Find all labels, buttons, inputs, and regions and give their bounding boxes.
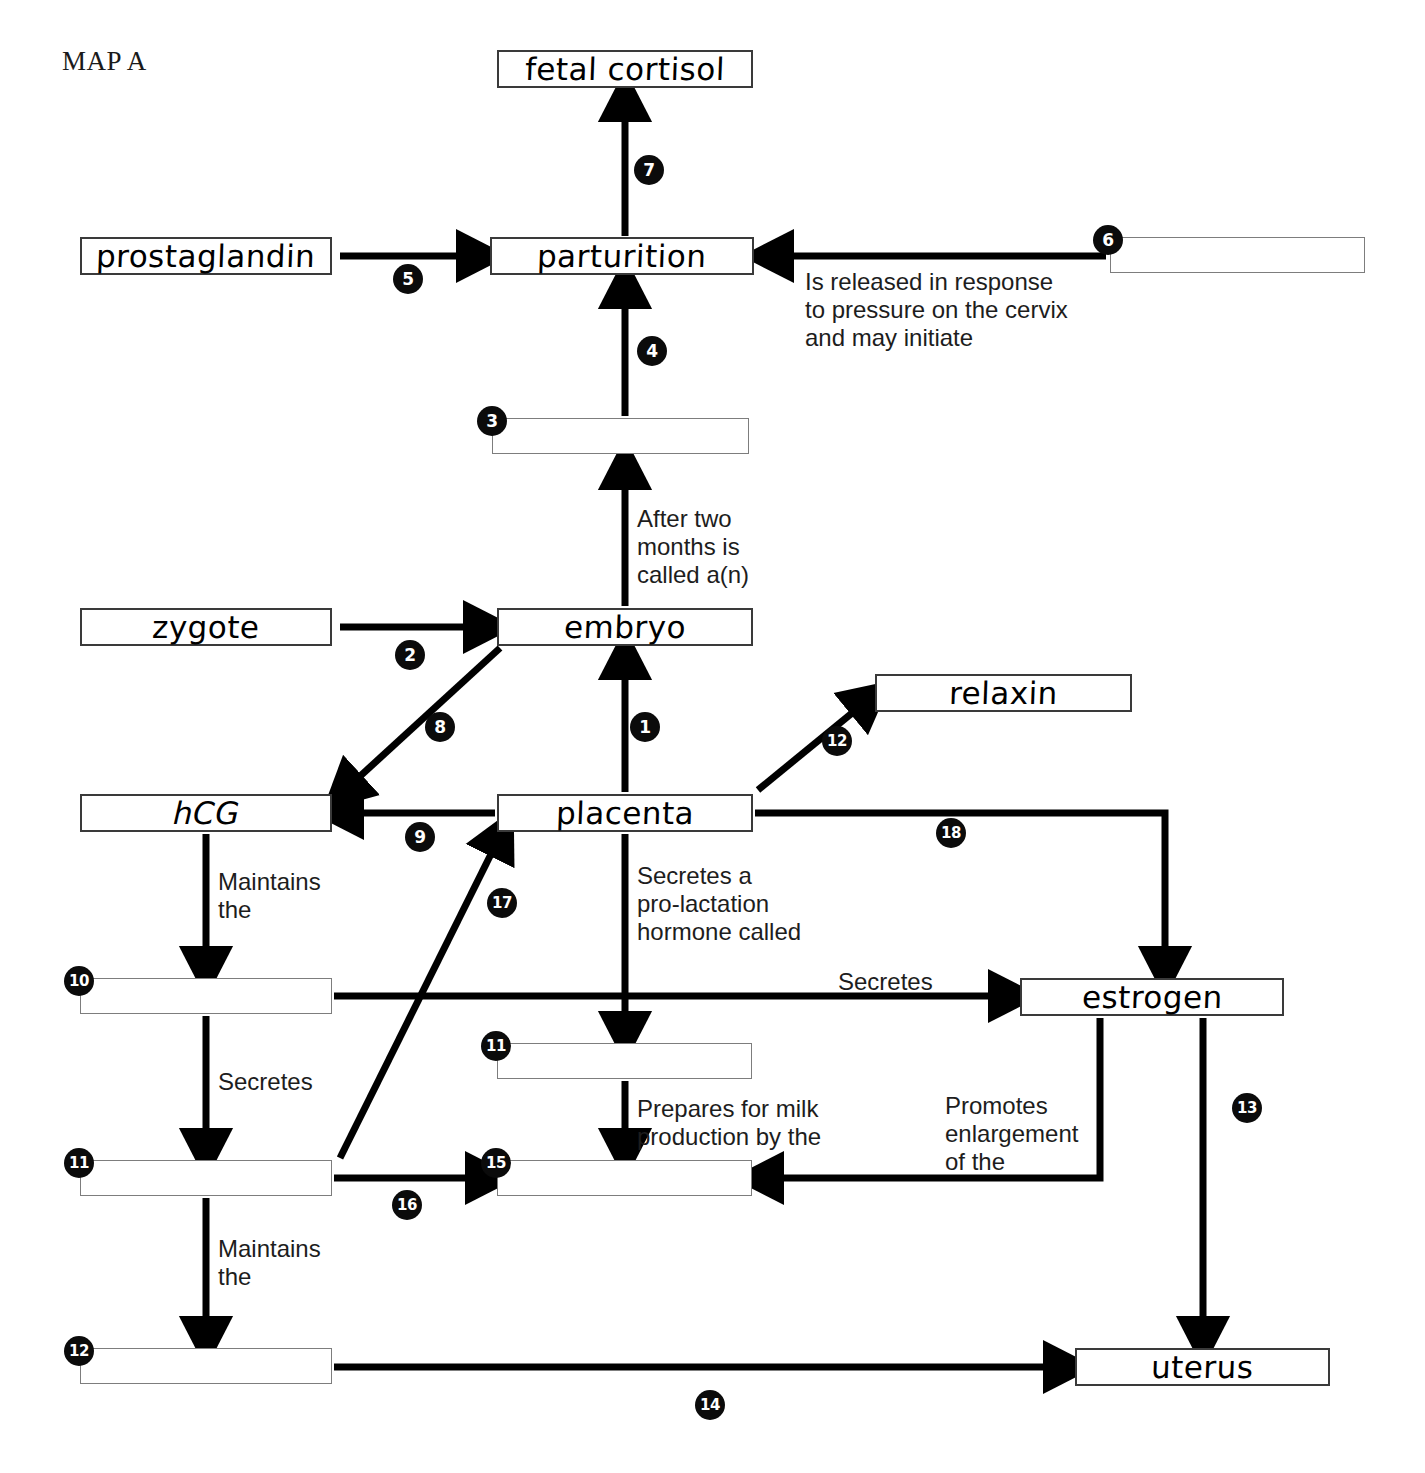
caption-prepares-for-milk: Prepares for milk production by the [637, 1095, 821, 1151]
number-marker-12-relaxin: 12 [822, 726, 852, 756]
node-label: prostaglandin [96, 241, 316, 272]
node-fetal-cortisol[interactable]: fetal cortisol [497, 50, 753, 88]
caption-after-two-months: After two months is called a(n) [637, 505, 749, 588]
number-marker-10: 10 [64, 966, 94, 996]
node-label: zygote [152, 612, 261, 643]
number-marker-1: 1 [630, 712, 660, 742]
caption-released-in-response: Is released in response to pressure on t… [805, 268, 1068, 351]
caption-secretes-prolactation-hormone: Secretes a pro-lactation hormone called [637, 862, 801, 945]
caption-secretes-estrogen: Secretes [838, 968, 933, 996]
node-parturition[interactable]: parturition [490, 237, 754, 275]
edge-12-placenta-to-relaxin [758, 700, 868, 790]
number-marker-4: 4 [637, 336, 667, 366]
number-marker-11-middle: 11 [481, 1031, 511, 1061]
answer-box-6[interactable] [1110, 237, 1365, 273]
number-marker-6: 6 [1093, 225, 1123, 255]
edge-17-blank11left-to-placenta [340, 836, 500, 1158]
node-embryo[interactable]: embryo [497, 608, 753, 646]
node-uterus[interactable]: uterus [1075, 1348, 1330, 1386]
number-marker-8: 8 [425, 712, 455, 742]
node-hcg[interactable]: hCG [80, 794, 332, 832]
number-marker-3: 3 [477, 406, 507, 436]
answer-box-3[interactable] [492, 418, 749, 454]
number-marker-2: 2 [395, 640, 425, 670]
number-marker-18: 18 [936, 818, 966, 848]
number-marker-13: 13 [1232, 1093, 1262, 1123]
answer-box-15[interactable] [497, 1160, 752, 1196]
caption-secretes-left: Secretes [218, 1068, 313, 1096]
answer-box-11-left[interactable] [80, 1160, 332, 1196]
caption-promotes-enlargement: Promotes enlargement of the [945, 1092, 1078, 1175]
number-marker-16: 16 [392, 1190, 422, 1220]
node-relaxin[interactable]: relaxin [875, 674, 1132, 712]
concept-map-canvas: MAP A fetal cortisol prostaglandin partu… [0, 0, 1425, 1473]
number-marker-14: 14 [695, 1390, 725, 1420]
node-estrogen[interactable]: estrogen [1020, 978, 1284, 1016]
caption-maintains-the-upper: Maintains the [218, 868, 321, 924]
number-marker-12-left: 12 [64, 1336, 94, 1366]
map-title: MAP A [62, 46, 147, 77]
answer-box-12[interactable] [80, 1348, 332, 1384]
number-marker-7: 7 [634, 155, 664, 185]
answer-box-10[interactable] [80, 978, 332, 1014]
node-label: placenta [555, 798, 694, 829]
edge-8-embryo-to-hcg [345, 648, 500, 790]
node-label: hCG [172, 798, 240, 829]
node-label: parturition [537, 241, 708, 272]
number-marker-11-left: 11 [64, 1148, 94, 1178]
number-marker-17: 17 [487, 888, 517, 918]
number-marker-9: 9 [405, 822, 435, 852]
caption-maintains-the-lower: Maintains the [218, 1235, 321, 1291]
node-label: relaxin [949, 678, 1059, 709]
node-placenta[interactable]: placenta [497, 794, 753, 832]
node-prostaglandin[interactable]: prostaglandin [80, 237, 332, 275]
connector-layer [0, 0, 1425, 1473]
node-zygote[interactable]: zygote [80, 608, 332, 646]
node-label: embryo [563, 612, 686, 643]
node-label: fetal cortisol [525, 54, 726, 85]
node-label: uterus [1151, 1352, 1255, 1383]
number-marker-5: 5 [393, 264, 423, 294]
answer-box-11-middle[interactable] [497, 1043, 752, 1079]
number-marker-15: 15 [481, 1148, 511, 1178]
node-label: estrogen [1081, 982, 1223, 1013]
